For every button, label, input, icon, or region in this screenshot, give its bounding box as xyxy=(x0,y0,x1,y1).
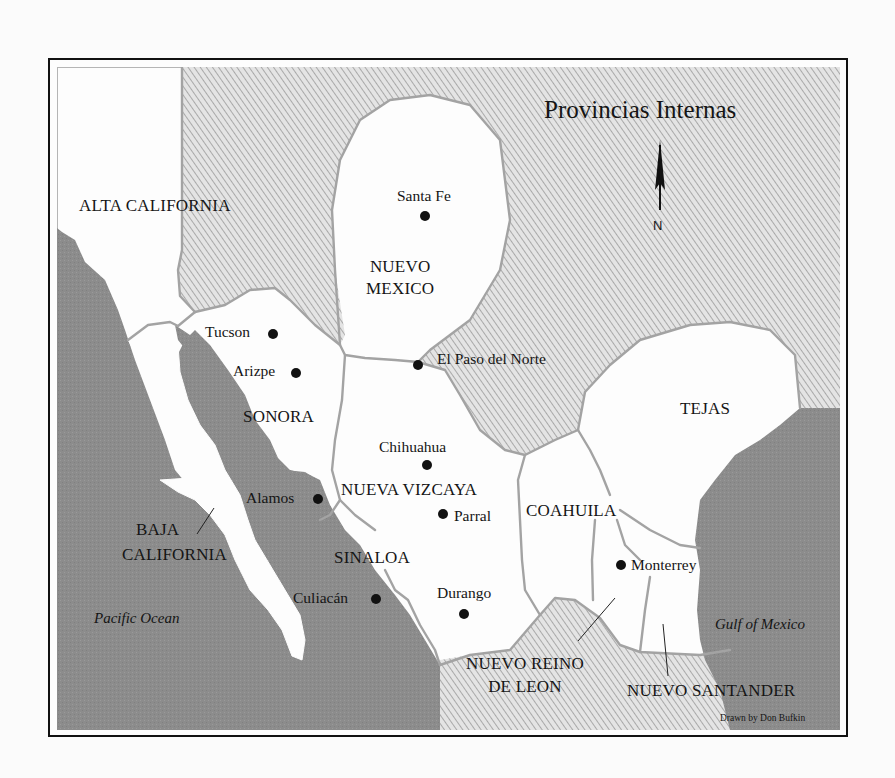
region-label-line: DE LEON xyxy=(466,678,584,695)
city-label-monterrey: Monterrey xyxy=(631,557,696,573)
city-label-el-paso: El Paso del Norte xyxy=(437,351,546,367)
city-label-durango: Durango xyxy=(437,585,491,601)
region-label-baja-california: BAJA CALIFORNIA xyxy=(122,521,227,563)
city-label-chihuahua: Chihuahua xyxy=(379,439,446,455)
map-credit: Drawn by Don Bufkin xyxy=(720,714,805,724)
city-dot-culiacan xyxy=(371,594,381,604)
water-label-pacific-ocean: Pacific Ocean xyxy=(94,611,179,626)
region-label-line: CALIFORNIA xyxy=(122,546,227,563)
region-label-tejas: TEJAS xyxy=(680,400,730,417)
city-dot-chihuahua xyxy=(422,460,432,470)
city-label-parral: Parral xyxy=(454,508,491,524)
city-dot-monterrey xyxy=(616,560,626,570)
region-label-nuevo-mexico: NUEVO MEXICO xyxy=(366,258,434,297)
city-dot-arizpe xyxy=(291,368,301,378)
city-label-tucson: Tucson xyxy=(205,324,250,340)
region-label-sonora: SONORA xyxy=(243,408,314,425)
city-dot-el-paso xyxy=(413,360,423,370)
city-dot-durango xyxy=(459,609,469,619)
region-label-line: NUEVO REINO xyxy=(466,655,584,672)
region-label-sinaloa: SINALOA xyxy=(334,549,410,566)
city-dot-parral xyxy=(438,509,448,519)
city-label-culiacan: Culiacán xyxy=(293,590,348,606)
city-dot-alamos xyxy=(313,494,323,504)
region-label-nueva-vizcaya: NUEVA VIZCAYA xyxy=(341,481,477,498)
north-label: N xyxy=(653,219,662,232)
region-label-line: NUEVO xyxy=(366,258,434,275)
region-label-nuevo-santander: NUEVO SANTANDER xyxy=(627,682,795,699)
map-canvas xyxy=(0,0,895,778)
water-label-gulf-of-mexico: Gulf of Mexico xyxy=(715,617,805,632)
city-label-santa-fe: Santa Fe xyxy=(397,188,451,204)
region-label-nuevo-reino-de-leon: NUEVO REINO DE LEON xyxy=(466,655,584,695)
city-dot-tucson xyxy=(268,329,278,339)
region-label-coahuila: COAHUILA xyxy=(526,502,616,519)
region-label-alta-california: ALTA CALIFORNIA xyxy=(79,197,231,214)
region-label-line: BAJA xyxy=(122,521,227,538)
city-label-arizpe: Arizpe xyxy=(233,363,275,379)
region-label-line: MEXICO xyxy=(366,280,434,297)
city-label-alamos: Alamos xyxy=(246,490,294,506)
city-dot-santa-fe xyxy=(420,211,430,221)
map-title: Provincias Internas xyxy=(544,97,736,122)
